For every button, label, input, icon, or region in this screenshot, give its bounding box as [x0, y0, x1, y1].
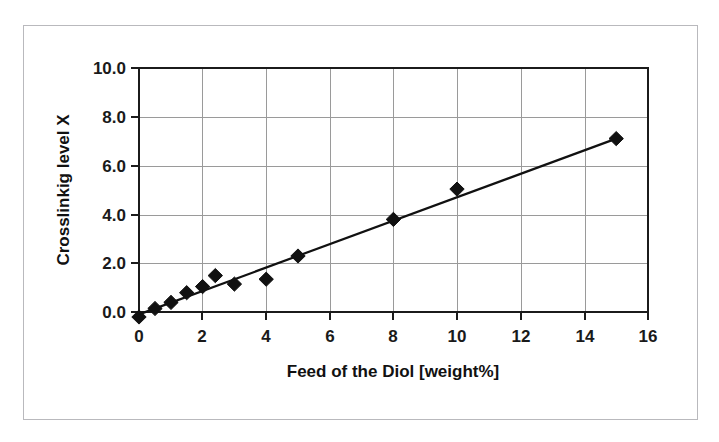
y-tick-label: 6.0 — [102, 157, 126, 176]
x-tick-label: 4 — [261, 327, 271, 346]
figure-root: 10.0 8.0 6.0 4.0 2.0 0.0 0 2 4 6 8 10 12… — [0, 0, 719, 442]
x-tick-label: 8 — [388, 327, 397, 346]
y-tick-label: 0.0 — [102, 303, 126, 322]
y-tick-marks — [131, 68, 139, 312]
data-markers — [132, 132, 624, 325]
data-point — [259, 272, 273, 286]
linear-fit-line — [139, 139, 616, 315]
y-tick-label: 8.0 — [102, 108, 126, 127]
y-tick-label: 10.0 — [93, 59, 126, 78]
data-point — [148, 301, 162, 315]
data-point — [208, 269, 222, 283]
data-point — [450, 182, 464, 196]
x-gridlines — [202, 68, 585, 312]
y-tick-labels: 10.0 8.0 6.0 4.0 2.0 0.0 — [93, 59, 126, 322]
scatter-chart: 10.0 8.0 6.0 4.0 2.0 0.0 0 2 4 6 8 10 12… — [0, 0, 719, 442]
y-tick-label: 2.0 — [102, 254, 126, 273]
data-point — [195, 280, 209, 294]
x-tick-label: 12 — [512, 327, 531, 346]
x-tick-labels: 0 2 4 6 8 10 12 14 16 — [134, 327, 657, 346]
x-tick-label: 16 — [639, 327, 658, 346]
x-tick-label: 10 — [448, 327, 467, 346]
data-point — [291, 249, 305, 263]
x-tick-label: 14 — [576, 327, 595, 346]
y-tick-label: 4.0 — [102, 206, 126, 225]
x-axis-title: Feed of the Diol [weight%] — [287, 362, 500, 381]
data-point — [386, 212, 400, 226]
x-tick-label: 2 — [197, 327, 206, 346]
data-point — [227, 277, 241, 291]
trend-line-group — [139, 139, 616, 315]
data-point — [164, 295, 178, 309]
x-tick-marks — [139, 312, 648, 320]
y-axis-title: Crosslinkig level X — [54, 114, 73, 266]
x-tick-label: 0 — [134, 327, 143, 346]
x-tick-label: 6 — [325, 327, 334, 346]
data-point — [609, 132, 623, 146]
